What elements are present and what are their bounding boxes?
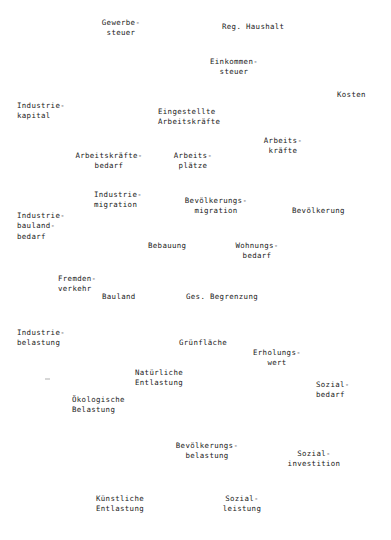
diagram-canvas: Gewerbe- steuerReg. HaushaltEinkommen- s…	[0, 0, 391, 540]
node-label-bauland: Bauland	[102, 292, 136, 302]
node-label-bebauung: Bebauung	[148, 241, 186, 251]
node-label-industriemigration: Industrie- migration	[94, 190, 142, 211]
scan-artifact-scan-speck	[45, 378, 50, 380]
node-label-reg-haushalt: Reg. Haushalt	[222, 22, 284, 32]
node-label-kuenstliche-entlastung: Künstliche Entlastung	[96, 494, 144, 515]
node-label-bevoelkerungsmigration: Bevölkerungs- migration	[185, 196, 247, 217]
node-label-gruenflaeche: Grünfläche	[179, 338, 227, 348]
node-label-gewerbesteuer: Gewerbe- steuer	[102, 18, 140, 39]
node-label-ges-begrenzung: Ges. Begrenzung	[186, 292, 258, 302]
node-label-einkommensteuer: Einkommen- steuer	[210, 57, 258, 78]
node-label-industriebelastung: Industrie- belastung	[17, 328, 65, 349]
node-label-bevoelkerungsbelastung: Bevölkerungs- belastung	[176, 441, 238, 462]
node-label-kosten: Kosten	[337, 90, 366, 100]
node-label-industriekapital: Industrie- kapital	[17, 101, 65, 122]
node-label-sozialleistung: Sozial- leistung	[223, 494, 261, 515]
node-label-sozialinvestition: Sozial- investition	[288, 449, 341, 470]
node-label-arbeitskraeftebedarf: Arbeitskräfte- bedarf	[75, 151, 142, 172]
node-label-fremdenverkehr: Fremden- verkehr	[58, 274, 96, 295]
node-label-oekologische-belastung: Ökologische Belastung	[72, 395, 125, 416]
node-label-wohnungsbedarf: Wohnungs- bedarf	[235, 241, 278, 262]
node-label-arbeitskraefte: Arbeits- kräfte	[264, 136, 302, 157]
node-label-natuerliche-entlastung: Natürliche Entlastung	[135, 368, 183, 389]
node-label-sozialbedarf: Sozial- bedarf	[316, 380, 350, 401]
node-label-industriebaulandbedarf: Industrie- bauland- bedarf	[17, 211, 65, 242]
node-label-bevoelkerung: Bevölkerung	[292, 206, 345, 216]
node-label-eingestellte-arbeitskraefte: Eingestellte Arbeitskräfte	[158, 107, 220, 128]
node-label-arbeitsplaetze: Arbeits- plätze	[174, 151, 212, 172]
node-label-erholungswert: Erholungs- wert	[253, 348, 301, 369]
